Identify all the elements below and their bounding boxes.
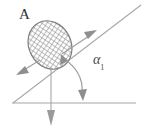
weight-force-arrow [47, 110, 55, 126]
body-label-a: A [19, 7, 30, 22]
down-incline-force-arrow [16, 60, 40, 75]
figure-canvas: A α1 [0, 0, 143, 131]
angle-label-alpha: α1 [93, 53, 104, 70]
alpha-subscript: 1 [100, 63, 104, 72]
angle-arc-arrow [60, 54, 87, 101]
